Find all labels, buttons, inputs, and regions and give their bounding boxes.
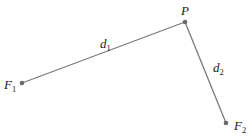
label-d1: d1	[100, 36, 111, 53]
point-p-dot	[183, 20, 188, 25]
point-f2-dot	[224, 121, 229, 126]
label-f1: F1	[3, 77, 16, 94]
focal-distance-diagram: F1 P F2 d1 d2	[0, 0, 252, 138]
label-d2: d2	[213, 60, 224, 77]
label-p: P	[180, 3, 189, 18]
segment-d1	[22, 22, 185, 83]
point-f1-dot	[20, 81, 25, 86]
label-f2: F2	[233, 118, 246, 135]
